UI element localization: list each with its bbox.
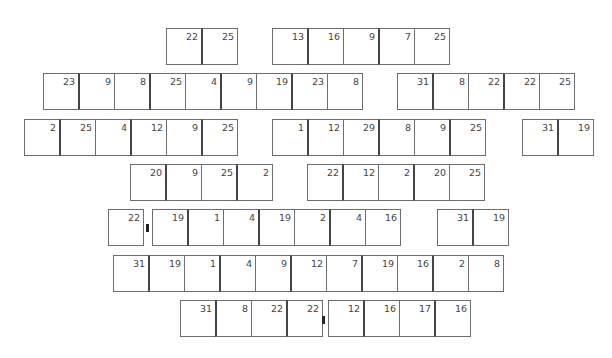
number-cell[interactable]: 2 bbox=[432, 255, 469, 292]
number-cell[interactable]: 25 bbox=[59, 119, 96, 156]
number-cell[interactable]: 2 bbox=[236, 164, 273, 201]
number-cell[interactable]: 19 bbox=[148, 255, 185, 292]
number-cell[interactable]: 29 bbox=[343, 119, 379, 156]
number-cell[interactable]: 25 bbox=[201, 28, 238, 65]
number-cell[interactable]: 31 bbox=[180, 300, 216, 337]
cell-value: 16 bbox=[455, 303, 467, 314]
number-cell[interactable]: 8 bbox=[327, 73, 363, 110]
number-cell[interactable]: 2 bbox=[24, 119, 60, 156]
number-cell[interactable]: 9 bbox=[255, 255, 291, 292]
number-cell[interactable]: 22 bbox=[307, 164, 343, 201]
number-cell[interactable]: 16 bbox=[365, 209, 401, 246]
number-cell[interactable]: 22 bbox=[468, 73, 504, 110]
number-cell[interactable]: 25 bbox=[449, 119, 486, 156]
cell-value: 12 bbox=[348, 303, 360, 314]
cell-group: 3119 bbox=[522, 119, 593, 156]
number-cell[interactable]: 31 bbox=[437, 209, 473, 246]
number-cell[interactable]: 16 bbox=[307, 28, 344, 65]
number-cell[interactable]: 8 bbox=[432, 73, 469, 110]
number-cell[interactable]: 12 bbox=[290, 255, 327, 292]
cell-value: 7 bbox=[405, 31, 411, 42]
cell-value: 1 bbox=[210, 258, 216, 269]
number-cell[interactable]: 17 bbox=[399, 300, 435, 337]
number-cell[interactable]: 2 bbox=[294, 209, 330, 246]
cell-value: 8 bbox=[353, 76, 359, 87]
number-cell[interactable]: 25 bbox=[539, 73, 575, 110]
number-cell[interactable]: 16 bbox=[397, 255, 433, 292]
number-cell[interactable]: 22 bbox=[503, 73, 540, 110]
cell-value: 25 bbox=[222, 31, 234, 42]
number-cell[interactable]: 4 bbox=[223, 209, 259, 246]
number-cell[interactable]: 25 bbox=[414, 28, 450, 65]
number-cell[interactable]: 22 bbox=[251, 300, 287, 337]
number-cell[interactable]: 31 bbox=[397, 73, 433, 110]
number-cell[interactable]: 25 bbox=[201, 119, 238, 156]
number-cell[interactable]: 20 bbox=[413, 164, 450, 201]
number-cell[interactable]: 23 bbox=[43, 73, 79, 110]
cell-value: 22 bbox=[271, 303, 283, 314]
cell-value: 9 bbox=[192, 122, 198, 133]
number-cell[interactable]: 19 bbox=[256, 73, 292, 110]
number-cell[interactable]: 8 bbox=[114, 73, 150, 110]
cell-value: 19 bbox=[276, 76, 288, 87]
cell-group: 112298925 bbox=[272, 119, 485, 156]
number-cell[interactable]: 22 bbox=[108, 209, 144, 246]
number-cell[interactable]: 2 bbox=[378, 164, 414, 201]
cell-value: 22 bbox=[128, 212, 140, 223]
number-cell[interactable]: 12 bbox=[307, 119, 344, 156]
number-cell[interactable]: 31 bbox=[113, 255, 149, 292]
cell-value: 9 bbox=[192, 167, 198, 178]
cell-value: 1 bbox=[298, 122, 304, 133]
cursor-marker bbox=[146, 224, 149, 232]
number-cell[interactable]: 23 bbox=[291, 73, 328, 110]
number-cell[interactable]: 12 bbox=[342, 164, 379, 201]
number-cell[interactable]: 8 bbox=[378, 119, 415, 156]
number-cell[interactable]: 19 bbox=[557, 119, 594, 156]
cell-value: 20 bbox=[150, 167, 162, 178]
number-cell[interactable]: 9 bbox=[343, 28, 379, 65]
number-cell[interactable]: 7 bbox=[378, 28, 415, 65]
number-cell[interactable]: 4 bbox=[95, 119, 131, 156]
cell-group: 2225 bbox=[166, 28, 237, 65]
number-cell[interactable]: 7 bbox=[326, 255, 362, 292]
number-cell[interactable]: 22 bbox=[166, 28, 202, 65]
cursor-marker bbox=[322, 316, 325, 324]
cell-value: 25 bbox=[222, 122, 234, 133]
number-cell[interactable]: 1 bbox=[272, 119, 308, 156]
number-cell[interactable]: 9 bbox=[220, 73, 257, 110]
cell-group: 2398254919238 bbox=[43, 73, 362, 110]
cell-value: 31 bbox=[200, 303, 212, 314]
number-cell[interactable]: 25 bbox=[201, 164, 237, 201]
number-cell[interactable]: 19 bbox=[152, 209, 188, 246]
number-cell[interactable]: 9 bbox=[166, 119, 202, 156]
number-cell[interactable]: 4 bbox=[329, 209, 366, 246]
number-cell[interactable]: 16 bbox=[363, 300, 400, 337]
number-cell[interactable]: 22 bbox=[286, 300, 323, 337]
number-cell[interactable]: 19 bbox=[361, 255, 398, 292]
cell-value: 9 bbox=[247, 76, 253, 87]
number-cell[interactable]: 19 bbox=[472, 209, 509, 246]
number-cell[interactable]: 16 bbox=[434, 300, 471, 337]
number-cell[interactable]: 25 bbox=[149, 73, 186, 110]
number-cell[interactable]: 1 bbox=[184, 255, 220, 292]
number-cell[interactable]: 4 bbox=[219, 255, 256, 292]
number-cell[interactable]: 19 bbox=[258, 209, 295, 246]
number-cell[interactable]: 8 bbox=[215, 300, 252, 337]
number-cell[interactable]: 1 bbox=[187, 209, 224, 246]
cell-value: 25 bbox=[80, 122, 92, 133]
number-cell[interactable]: 9 bbox=[78, 73, 115, 110]
cell-value: 9 bbox=[369, 31, 375, 42]
number-cell[interactable]: 12 bbox=[130, 119, 167, 156]
number-cell[interactable]: 12 bbox=[328, 300, 364, 337]
cell-value: 22 bbox=[327, 167, 339, 178]
number-cell[interactable]: 13 bbox=[272, 28, 308, 65]
number-cell[interactable]: 9 bbox=[165, 164, 202, 201]
number-cell[interactable]: 8 bbox=[468, 255, 504, 292]
number-cell[interactable]: 25 bbox=[449, 164, 485, 201]
cell-value: 4 bbox=[249, 212, 255, 223]
cell-value: 19 bbox=[493, 212, 505, 223]
number-cell[interactable]: 9 bbox=[414, 119, 450, 156]
number-cell[interactable]: 20 bbox=[130, 164, 166, 201]
number-cell[interactable]: 4 bbox=[185, 73, 221, 110]
number-cell[interactable]: 31 bbox=[522, 119, 558, 156]
